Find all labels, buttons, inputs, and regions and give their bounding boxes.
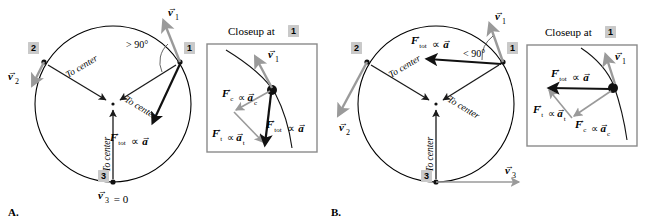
velocity-label-3-a: v→3 = 0 — [98, 186, 129, 205]
svg-text:1: 1 — [510, 43, 515, 53]
circle-center-a — [111, 102, 114, 105]
panel-b-diagram: To center To center To center v→1 v→2 v→… — [323, 0, 646, 222]
position-badge-2-a: 2 — [28, 42, 39, 54]
ftot-arrow-main-a — [153, 64, 180, 122]
closeup-title-b: Closeup at — [545, 26, 592, 38]
velocity-label-1-b: v→1 — [495, 7, 506, 26]
angle-label-b: < 90° — [463, 48, 485, 59]
panel-a: To center To center To center v→1 v→2 v→… — [0, 0, 323, 222]
velocity-vector-1-a — [164, 22, 180, 62]
velocity-label-1-a: v→1 — [168, 3, 179, 22]
position-badge-3-a: 3 — [98, 170, 109, 182]
velocity-vector-1-b — [490, 25, 503, 62]
ftot-arrow-main-b — [428, 59, 501, 64]
to-center-label-2-b: To center — [387, 53, 423, 80]
to-center-label-2-a: To center — [64, 53, 100, 80]
velocity-label-3-b: v→3 — [505, 161, 516, 180]
closeup-title-badge-b: 1 — [605, 26, 616, 38]
position-badge-3-b: 3 — [421, 170, 432, 182]
closeup-box-b — [527, 45, 637, 146]
position-badge-1-a: 1 — [184, 42, 195, 54]
panel-b: To center To center To center v→1 v→2 v→… — [323, 0, 646, 222]
svg-text:2: 2 — [354, 43, 359, 53]
closeup-title-a: Closeup at — [228, 25, 275, 37]
position-dot-3-a — [110, 179, 115, 184]
svg-text:1: 1 — [291, 26, 296, 36]
panel-letter-b: B. — [331, 206, 341, 218]
physics-figure: To center To center To center v→1 v→2 v→… — [0, 0, 646, 222]
svg-text:3: 3 — [424, 171, 429, 181]
to-center-label-1-a: To center — [123, 94, 159, 121]
ftot-label-main-b: F→tot ∝ a→ — [410, 31, 452, 50]
panel-a-diagram: To center To center To center v→1 v→2 v→… — [0, 0, 323, 222]
position-badge-2-b: 2 — [351, 42, 362, 54]
svg-text:1: 1 — [187, 43, 192, 53]
velocity-vector-2-b — [339, 62, 367, 114]
ftot-label-main-a: F→tot ∝ a→ — [109, 128, 151, 147]
velocity-label-2-a: v→2 — [8, 67, 19, 86]
svg-text:2: 2 — [31, 43, 36, 53]
svg-text:1: 1 — [608, 27, 613, 37]
panel-letter-a: A. — [8, 206, 19, 218]
circle-center-b — [434, 102, 437, 105]
to-center-label-3-b: To center — [425, 136, 435, 172]
closeup-ftot-arrow-b — [550, 88, 611, 89]
to-center-label-1-b: To center — [446, 94, 482, 121]
angle-label-a: > 90° — [126, 39, 148, 50]
position-badge-1-b: 1 — [507, 42, 518, 54]
closeup-title-badge-a: 1 — [288, 25, 299, 37]
svg-text:3: 3 — [101, 171, 106, 181]
velocity-label-2-b: v→2 — [339, 118, 350, 137]
